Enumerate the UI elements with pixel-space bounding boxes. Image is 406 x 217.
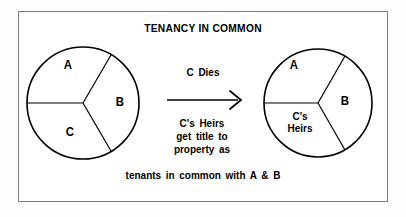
diagram-screenshot: TENANCY IN COMMON A B C A B C's Heirs C … (0, 0, 406, 217)
left-sector-label-b: B (109, 95, 132, 109)
explanation-line-4: tenants in common with A & B (28, 169, 378, 181)
explanation-line-1: C's Heirs (151, 117, 254, 130)
explanation-line-2: get title to (151, 130, 254, 143)
explanation-block: C's Heirs get title to property as (151, 117, 254, 156)
transition-caption: C Dies (168, 66, 238, 78)
page-title: TENANCY IN COMMON (14, 22, 392, 34)
left-sector-label-a: A (57, 58, 80, 72)
explanation-line-3: property as (151, 143, 254, 156)
right-sector-label-a: A (283, 58, 306, 72)
right-sector-label-heirs-line2: Heirs (280, 122, 320, 134)
right-sector-label-b: B (334, 94, 357, 108)
left-sector-label-c: C (59, 125, 82, 139)
right-sector-label-heirs-line1: C's (280, 110, 320, 122)
